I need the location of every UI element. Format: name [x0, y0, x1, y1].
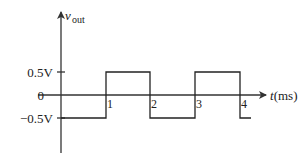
y-tick-label-zero: 0	[38, 88, 45, 103]
y-axis-label: v	[65, 8, 71, 23]
square-wave-diagram: v out 0.5V 0 −0.5V 1 2 3 4 t(ms)	[0, 0, 305, 162]
y-tick-label-neg: −0.5V	[20, 111, 54, 126]
x-axis-label: t(ms)	[270, 88, 297, 103]
x-tick-label-1: 1	[107, 97, 113, 111]
x-tick-label-2: 2	[151, 97, 157, 111]
x-tick-label-3: 3	[196, 97, 202, 111]
y-tick-label-pos: 0.5V	[27, 65, 53, 80]
x-tick-label-4: 4	[241, 97, 247, 111]
y-axis-label-sub: out	[72, 14, 85, 25]
